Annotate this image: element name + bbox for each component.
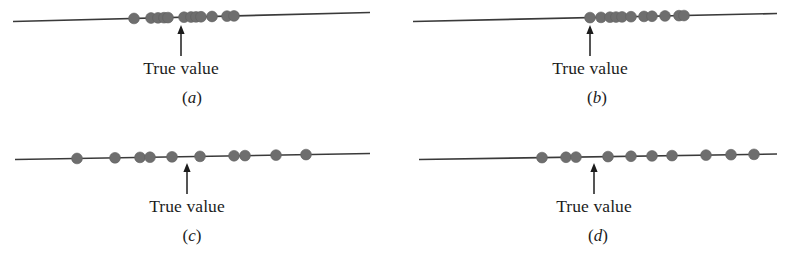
measurement-dot xyxy=(537,152,548,163)
true-value-arrow-head xyxy=(590,163,597,172)
panel-d: True value(d) xyxy=(394,137,787,273)
measurement-dot xyxy=(135,152,146,163)
true-value-arrow-head xyxy=(177,25,184,34)
measurement-dot xyxy=(701,150,712,161)
caption-letter: a xyxy=(188,88,197,107)
measurement-dot xyxy=(229,150,240,161)
measurement-dot xyxy=(229,11,240,22)
measurement-dot xyxy=(647,151,658,162)
measurement-dot xyxy=(660,11,671,22)
measurement-dots xyxy=(537,149,760,163)
measurement-dot xyxy=(196,11,207,22)
measurement-dot xyxy=(129,13,140,24)
true-value-arrow-head xyxy=(586,25,593,34)
panel-caption-b: (b) xyxy=(587,88,607,108)
measurement-dot xyxy=(561,152,572,163)
measurement-dot xyxy=(571,152,582,163)
panel-caption-a: (a) xyxy=(182,88,202,108)
measurement-dot xyxy=(110,152,121,163)
measurement-dot xyxy=(195,151,206,162)
measurement-dot xyxy=(271,150,282,161)
true-value-label: True value xyxy=(556,196,632,217)
measurement-dot xyxy=(207,11,218,22)
caption-paren-close: ) xyxy=(196,226,202,245)
number-line xyxy=(419,154,777,160)
measurement-dot xyxy=(72,153,83,164)
measurement-dot xyxy=(240,150,251,161)
measurement-dot xyxy=(167,151,178,162)
measurement-dot xyxy=(749,149,760,160)
panel-c: True value(c) xyxy=(0,137,394,273)
panel-caption-c: (c) xyxy=(183,226,202,246)
measurement-dot xyxy=(626,151,637,162)
caption-paren-close: ) xyxy=(602,226,608,245)
measurement-dot xyxy=(301,149,312,160)
panel-a: True value(a) xyxy=(0,0,394,137)
true-value-label: True value xyxy=(149,196,225,217)
measurement-dot xyxy=(163,12,174,23)
measurement-dot xyxy=(585,12,596,23)
measurement-dot xyxy=(145,152,156,163)
number-line xyxy=(15,154,370,160)
caption-paren-close: ) xyxy=(196,88,202,107)
measurement-dot xyxy=(603,151,614,162)
panel-b: True value(b) xyxy=(394,0,787,137)
measurement-dot xyxy=(647,11,658,22)
caption-letter: d xyxy=(594,226,603,245)
accuracy-precision-figure: True value(a)True value(b)True value(c)T… xyxy=(0,0,787,273)
measurement-dot xyxy=(626,11,637,22)
measurement-dots xyxy=(129,11,240,24)
caption-letter: b xyxy=(593,88,602,107)
true-value-arrow-head xyxy=(183,163,190,172)
caption-paren-close: ) xyxy=(601,88,607,107)
measurement-dot xyxy=(726,149,737,160)
measurement-dot xyxy=(667,150,678,161)
measurement-dot xyxy=(679,10,690,21)
panel-caption-d: (d) xyxy=(588,226,608,246)
true-value-label: True value xyxy=(552,58,628,79)
true-value-label: True value xyxy=(143,58,219,79)
